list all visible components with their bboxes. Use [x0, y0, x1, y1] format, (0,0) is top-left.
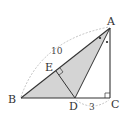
label-b: B — [8, 93, 16, 106]
label-e: E — [45, 61, 53, 74]
measure-ab: 10 — [51, 46, 63, 56]
measure-dc: 3 — [89, 102, 95, 112]
right-angle-mark-c — [105, 93, 110, 98]
label-d: D — [69, 100, 78, 113]
label-c: C — [111, 98, 119, 111]
label-a: A — [106, 15, 116, 28]
angle-mark-dot-2 — [106, 41, 108, 43]
angle-mark-dot-1 — [99, 37, 101, 39]
geometry-diagram: A B C D E 10 3 — [0, 0, 128, 113]
